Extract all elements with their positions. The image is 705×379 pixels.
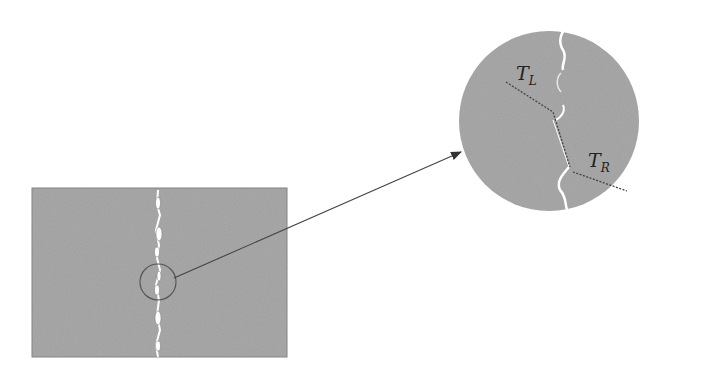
crack-diagram xyxy=(0,0,705,379)
magnified-view xyxy=(459,25,639,228)
tension-left-label: TL xyxy=(516,62,537,88)
tension-right-label: TR xyxy=(588,149,610,175)
specimen-block xyxy=(32,188,287,357)
